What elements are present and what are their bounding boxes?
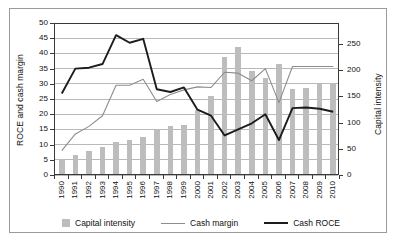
y-axis-left-tick-label: 5 bbox=[10, 155, 48, 164]
x-axis-tick-label: 2002 bbox=[220, 181, 229, 199]
y-axis-left-tickmark bbox=[50, 38, 54, 39]
x-axis-tickmark bbox=[190, 175, 191, 179]
line-cash-roce bbox=[62, 35, 333, 140]
chart-legend: Capital intensityCash marginCash ROCE bbox=[62, 215, 362, 231]
y-axis-left-tick-label: 10 bbox=[10, 140, 48, 149]
plot-area bbox=[54, 23, 339, 175]
x-axis-tickmark bbox=[54, 175, 55, 179]
x-axis-tick-label: 1994 bbox=[111, 181, 120, 199]
x-axis-tick-label: 2000 bbox=[193, 181, 202, 199]
x-axis-tickmark bbox=[230, 175, 231, 179]
x-axis-tick-label: 1997 bbox=[152, 181, 161, 199]
y-axis-right-title: Capital intensity bbox=[373, 39, 383, 169]
x-axis-tickmark bbox=[135, 175, 136, 179]
x-axis-tick-label: 1998 bbox=[165, 181, 174, 199]
x-axis-tickmark bbox=[244, 175, 245, 179]
y-axis-left-tick-label: 25 bbox=[10, 94, 48, 103]
y-axis-right-tickmark bbox=[339, 149, 343, 150]
y-axis-left-tickmark bbox=[50, 23, 54, 24]
x-axis-tick-label: 2007 bbox=[288, 181, 297, 199]
y-axis-left-tickmark bbox=[50, 114, 54, 115]
x-axis-tickmark bbox=[149, 175, 150, 179]
x-axis-tickmark bbox=[81, 175, 82, 179]
x-axis-tick-label: 2003 bbox=[233, 181, 242, 199]
y-axis-left-tickmark bbox=[50, 53, 54, 54]
x-axis-tick-label: 2008 bbox=[301, 181, 310, 199]
x-axis-tickmark bbox=[95, 175, 96, 179]
y-axis-right-tick-label: 50 bbox=[347, 144, 373, 153]
legend-line-swatch-light-icon bbox=[161, 223, 185, 224]
y-axis-right-tick-label: 100 bbox=[347, 118, 373, 127]
x-axis-tickmark bbox=[108, 175, 109, 179]
y-axis-left-tick-label: 35 bbox=[10, 64, 48, 73]
x-axis-tick-label: 2010 bbox=[328, 181, 337, 199]
y-axis-left-tick-label: 40 bbox=[10, 48, 48, 57]
y-axis-left-tick-label: 20 bbox=[10, 109, 48, 118]
y-axis-right-tickmark bbox=[339, 70, 343, 71]
legend-item[interactable]: Cash ROCE bbox=[264, 218, 340, 228]
x-axis-tickmark bbox=[176, 175, 177, 179]
legend-line-swatch-dark-icon bbox=[264, 222, 288, 224]
y-axis-left-tickmark bbox=[50, 160, 54, 161]
legend-bar-swatch-icon bbox=[62, 219, 70, 227]
x-axis-tick-label: 1993 bbox=[98, 181, 107, 199]
x-axis-tick-label: 2001 bbox=[206, 181, 215, 199]
y-axis-right-tickmark bbox=[339, 96, 343, 97]
x-axis-tick-label: 2004 bbox=[247, 181, 256, 199]
legend-item[interactable]: Cash margin bbox=[161, 218, 238, 228]
x-axis-tickmark bbox=[325, 175, 326, 179]
legend-item-label: Cash margin bbox=[190, 218, 238, 228]
x-axis-tickmark bbox=[271, 175, 272, 179]
x-axis-tickmark bbox=[68, 175, 69, 179]
y-axis-right-tick-label: 250 bbox=[347, 39, 373, 48]
x-axis-tick-label: 1992 bbox=[84, 181, 93, 199]
y-axis-left-tickmark bbox=[50, 84, 54, 85]
y-axis-right-tickmark bbox=[339, 123, 343, 124]
x-axis-tickmark bbox=[258, 175, 259, 179]
y-axis-left-tick-label: 15 bbox=[10, 124, 48, 133]
y-axis-right-tick-label: 150 bbox=[347, 91, 373, 100]
x-axis-tick-label: 1990 bbox=[57, 181, 66, 199]
x-axis-tickmark bbox=[122, 175, 123, 179]
x-axis-tick-label: 2005 bbox=[260, 181, 269, 199]
x-axis-tickmark bbox=[163, 175, 164, 179]
y-axis-left-tick-label: 0 bbox=[10, 170, 48, 179]
x-axis-tick-label: 1991 bbox=[70, 181, 79, 199]
y-axis-left-tickmark bbox=[50, 99, 54, 100]
x-axis-tickmark bbox=[217, 175, 218, 179]
x-axis-tickmark bbox=[298, 175, 299, 179]
x-axis-tickmark bbox=[203, 175, 204, 179]
chart-container: ROCE and cash margin Capital intensity 0… bbox=[9, 8, 387, 233]
x-axis-tick-label: 1999 bbox=[179, 181, 188, 199]
x-axis-tick-label: 2009 bbox=[315, 181, 324, 199]
y-axis-left-tickmark bbox=[50, 145, 54, 146]
legend-item[interactable]: Capital intensity bbox=[62, 218, 135, 228]
y-axis-right-tick-label: 200 bbox=[347, 65, 373, 74]
legend-item-label: Capital intensity bbox=[75, 218, 135, 228]
x-axis-tick-label: 1995 bbox=[125, 181, 134, 199]
x-axis-tickmark bbox=[339, 175, 340, 179]
x-axis-tickmark bbox=[312, 175, 313, 179]
line-series-group bbox=[55, 23, 340, 175]
x-axis-tickmark bbox=[285, 175, 286, 179]
x-axis-tick-label: 2006 bbox=[274, 181, 283, 199]
legend-item-label: Cash ROCE bbox=[293, 218, 340, 228]
y-axis-left-tick-label: 50 bbox=[10, 18, 48, 27]
y-axis-left-tickmark bbox=[50, 69, 54, 70]
y-axis-right-tickmark bbox=[339, 44, 343, 45]
x-axis-tick-label: 1996 bbox=[138, 181, 147, 199]
y-axis-left-tick-label: 45 bbox=[10, 33, 48, 42]
y-axis-right-tick-label: 0 bbox=[347, 170, 373, 179]
y-axis-left-tickmark bbox=[50, 129, 54, 130]
y-axis-left-tick-label: 30 bbox=[10, 79, 48, 88]
